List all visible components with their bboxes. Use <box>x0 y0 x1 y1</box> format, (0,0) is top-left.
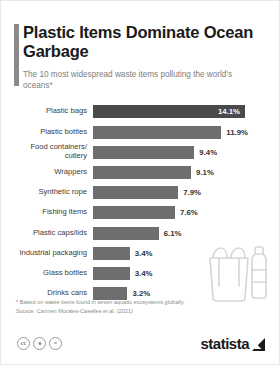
bar-value-label: 7.9% <box>183 188 201 197</box>
bar-row: Fishing items7.6% <box>1 206 269 219</box>
bar <box>93 206 175 219</box>
bar-track: 7.6% <box>93 206 269 219</box>
cc-nd-icon[interactable]: = <box>49 337 62 350</box>
bar-category-label: Glass bottles <box>1 269 93 278</box>
bar-row: Food containers/ cutlery9.4% <box>1 146 269 159</box>
bar-row: Plastic bags14.1% <box>1 105 269 118</box>
bar-category-label: Plastic caps/lids <box>1 229 93 238</box>
footer: cc ⚹ = statista <box>1 332 279 354</box>
bar-row: Plastic caps/lids6.1% <box>1 227 269 240</box>
bar <box>93 166 191 179</box>
bar-chart: Plastic bags14.1%Plastic bottles11.9%Foo… <box>1 105 279 300</box>
bar-category-label: Industrial packaging <box>1 249 93 258</box>
bar-track: 6.1% <box>93 227 269 240</box>
bar-value-label: 9.4% <box>199 148 217 157</box>
cc-by-icon[interactable]: ⚹ <box>33 337 46 350</box>
statista-logo[interactable]: statista <box>200 335 265 352</box>
bar-category-label: Food containers/ cutlery <box>1 143 93 161</box>
bar-value-label: 3.4% <box>135 269 153 278</box>
statista-arrow-icon <box>252 338 265 351</box>
bar-row: Wrappers9.1% <box>1 166 269 179</box>
bar-category-label: Plastic bags <box>1 107 93 116</box>
chart-subtitle: The 10 most widespread waste items pollu… <box>23 69 263 93</box>
bar-value-label: 3.2% <box>132 289 150 298</box>
bar-category-label: Plastic bottles <box>1 128 93 137</box>
bar <box>93 267 130 280</box>
bar-category-label: Drinks cans <box>1 289 93 298</box>
infographic-card: Plastic Items Dominate Ocean Garbage The… <box>0 0 280 365</box>
creative-commons-icons: cc ⚹ = <box>17 337 62 350</box>
plastic-bag-bottle-illustration <box>207 242 273 304</box>
bar <box>93 146 194 159</box>
bar-value-label: 11.9% <box>226 128 248 137</box>
chart-header: Plastic Items Dominate Ocean Garbage The… <box>1 1 279 92</box>
bar-value-label: 7.6% <box>180 208 198 217</box>
bar-category-label: Wrappers <box>1 168 93 177</box>
cc-icon[interactable]: cc <box>17 337 30 350</box>
bar-track: 14.1% <box>93 105 269 118</box>
bar-value-label: 14.1% <box>218 107 240 116</box>
bar-category-label: Synthetic rope <box>1 188 93 197</box>
brand-name: statista <box>200 335 249 352</box>
bar: 14.1% <box>93 105 245 118</box>
bar-value-label: 6.1% <box>164 229 182 238</box>
bar <box>93 126 221 139</box>
bar <box>93 186 178 199</box>
bar-value-label: 3.4% <box>135 249 153 258</box>
bar-track: 11.9% <box>93 126 269 139</box>
bar-value-label: 9.1% <box>196 168 214 177</box>
bar-track: 9.1% <box>93 166 269 179</box>
accent-bar <box>14 24 19 86</box>
bar-category-label: Fishing items <box>1 208 93 217</box>
bar-track: 7.9% <box>93 186 269 199</box>
bar-track: 9.4% <box>93 146 269 159</box>
bar <box>93 247 130 260</box>
bar-row: Synthetic rope7.9% <box>1 186 269 199</box>
bar <box>93 227 159 240</box>
footnotes: * Based on waste items found in seven aq… <box>16 298 185 316</box>
footnote-note: * Based on waste items found in seven aq… <box>16 298 185 307</box>
bar-row: Plastic bottles11.9% <box>1 126 269 139</box>
footnote-source: Source: Carmen Morales-Caselles et al. (… <box>16 307 185 316</box>
page-title: Plastic Items Dominate Ocean Garbage <box>23 23 263 62</box>
